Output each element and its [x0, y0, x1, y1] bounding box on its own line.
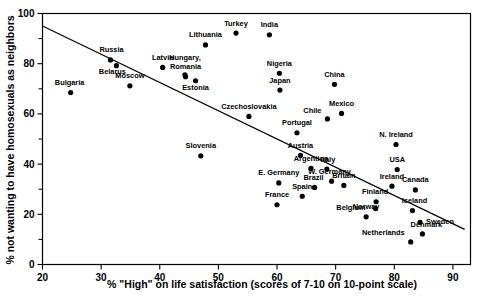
- point-marker[interactable]: [198, 153, 203, 158]
- data-point[interactable]: Spain: [292, 182, 313, 199]
- point-marker[interactable]: [364, 214, 369, 219]
- y-tick-label: 60: [23, 108, 35, 119]
- point-marker[interactable]: [108, 57, 113, 62]
- data-point[interactable]: Mexico: [329, 99, 355, 116]
- y-tick-label: 80: [23, 58, 35, 69]
- data-point[interactable]: France: [265, 190, 289, 207]
- point-marker[interactable]: [420, 231, 425, 236]
- data-point[interactable]: Netherlands: [362, 228, 413, 244]
- x-tick-label: 70: [330, 272, 342, 283]
- y-tick-label: 40: [23, 159, 35, 170]
- x-tick-label: 30: [96, 272, 108, 283]
- point-label: Hungary,: [169, 53, 200, 62]
- point-marker[interactable]: [274, 202, 279, 207]
- data-point[interactable]: Lithuania: [189, 30, 223, 47]
- point-marker[interactable]: [408, 239, 413, 244]
- data-point[interactable]: Slovenia: [186, 141, 217, 158]
- point-label: Bulgaria: [55, 78, 85, 87]
- point-label: Lithuania: [189, 30, 223, 39]
- x-tick-label: 40: [154, 272, 166, 283]
- point-label: Austria: [288, 141, 314, 150]
- point-marker[interactable]: [160, 65, 165, 70]
- data-point[interactable]: Moscow: [115, 71, 144, 88]
- point-label: India: [261, 20, 279, 29]
- point-label: N. Ireland: [379, 130, 413, 139]
- y-tick-label: 100: [18, 8, 35, 19]
- data-point[interactable]: Denmark: [411, 220, 444, 236]
- data-point[interactable]: USA: [389, 155, 405, 172]
- point-label: Turkey: [224, 19, 249, 28]
- point-marker[interactable]: [183, 74, 188, 79]
- x-tick-label: 90: [447, 272, 459, 283]
- point-label: Mexico: [329, 99, 355, 108]
- point-label: China: [324, 70, 345, 79]
- point-label: Netherlands: [362, 228, 405, 237]
- point-label: Romania: [170, 62, 202, 71]
- data-point[interactable]: Norway: [353, 202, 381, 219]
- point-label: Finland: [362, 187, 389, 196]
- scatter-chart: % not wanting to have homosexuals as nei…: [0, 0, 487, 302]
- data-point[interactable]: Nigeria: [267, 59, 293, 76]
- data-point[interactable]: China: [324, 70, 345, 87]
- point-label: Portugal: [282, 118, 312, 127]
- x-tick-label: 20: [37, 272, 49, 283]
- data-point[interactable]: India: [261, 20, 279, 37]
- point-marker[interactable]: [276, 180, 281, 185]
- point-label: France: [265, 190, 289, 199]
- data-point[interactable]: Turkey: [224, 19, 249, 36]
- data-point[interactable]: Britain: [332, 171, 356, 188]
- point-label: Norway: [353, 202, 381, 211]
- point-label: E. Germany: [258, 168, 300, 177]
- x-tick-label: 50: [213, 272, 225, 283]
- point-label: USA: [389, 155, 405, 164]
- point-marker[interactable]: [393, 142, 398, 147]
- data-point[interactable]: Canada: [402, 175, 430, 192]
- point-label: Spain: [292, 182, 313, 191]
- x-tick-label: 60: [271, 272, 283, 283]
- point-label: Japan: [269, 76, 291, 85]
- point-marker[interactable]: [341, 183, 346, 188]
- point-marker[interactable]: [389, 184, 394, 189]
- data-point[interactable]: Ireland: [380, 172, 405, 189]
- point-marker[interactable]: [332, 82, 337, 87]
- chart-canvas: % not wanting to have homosexuals as nei…: [0, 0, 487, 302]
- data-point[interactable]: Iceland: [402, 196, 428, 213]
- y-tick-label: 20: [23, 209, 35, 220]
- point-marker[interactable]: [68, 90, 73, 95]
- data-point[interactable]: Romania: [170, 62, 202, 79]
- point-marker[interactable]: [267, 32, 272, 37]
- data-point[interactable]: N. Ireland: [379, 130, 413, 147]
- point-marker[interactable]: [339, 111, 344, 116]
- data-point[interactable]: Russia: [99, 45, 124, 62]
- point-label: Moscow: [115, 71, 144, 80]
- point-marker[interactable]: [410, 208, 415, 213]
- point-label: Italy: [320, 155, 336, 164]
- point-marker[interactable]: [413, 187, 418, 192]
- point-marker[interactable]: [233, 30, 238, 35]
- data-point[interactable]: Japan: [269, 76, 291, 93]
- axis-titles: % not wanting to have homosexuals as nei…: [4, 15, 417, 290]
- point-marker[interactable]: [127, 83, 132, 88]
- data-point[interactable]: Estonia: [182, 78, 210, 92]
- point-marker[interactable]: [300, 194, 305, 199]
- point-marker[interactable]: [325, 116, 330, 121]
- point-marker[interactable]: [246, 114, 251, 119]
- point-label: Chile: [303, 106, 321, 115]
- point-label: Slovenia: [186, 141, 217, 150]
- axes: 2030405060708090020406080100: [18, 8, 471, 283]
- point-label: Estonia: [182, 83, 210, 92]
- data-points: BulgariaRussiaBelarusMoscowLatviaHungary…: [55, 19, 455, 245]
- x-tick-label: 80: [389, 272, 401, 283]
- point-marker[interactable]: [294, 130, 299, 135]
- point-marker[interactable]: [203, 42, 208, 47]
- point-label: Iceland: [402, 196, 428, 205]
- y-axis-title: % not wanting to have homosexuals as nei…: [4, 15, 16, 264]
- point-marker[interactable]: [277, 87, 282, 92]
- data-point[interactable]: Bulgaria: [55, 78, 85, 95]
- point-label: Czechoslovakia: [221, 102, 277, 111]
- point-marker[interactable]: [312, 185, 317, 190]
- data-point[interactable]: Portugal: [282, 118, 312, 135]
- point-label: Ireland: [380, 172, 405, 181]
- point-label: Britain: [332, 171, 356, 180]
- point-label: Russia: [99, 45, 124, 54]
